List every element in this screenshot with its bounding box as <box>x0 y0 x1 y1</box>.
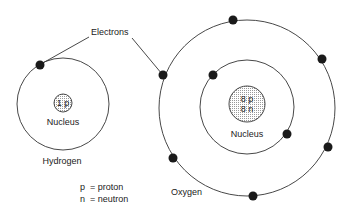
electrons-label: Electrons <box>91 27 129 37</box>
electron-icon <box>159 71 168 80</box>
electron-icon <box>324 143 333 152</box>
legend: p = proton n = neutron <box>80 182 128 204</box>
hydrogen-label: Hydrogen <box>42 156 81 166</box>
atom-diagram: Electrons 1 p Nucleus Hydrogen 8 p 8 n N… <box>0 0 350 218</box>
hydrogen-nucleus-content: 1 p <box>57 98 70 108</box>
electron-icon <box>36 61 45 70</box>
oxygen-atom: 8 p 8 n Nucleus Oxygen <box>159 16 336 201</box>
legend-meaning-neutron: = neutron <box>90 194 128 204</box>
oxygen-nucleus-protons: 8 p <box>241 94 254 104</box>
electron-icon <box>249 192 258 201</box>
oxygen-label: Oxygen <box>171 187 202 197</box>
oxygen-nucleus-neutrons: 8 n <box>241 104 254 114</box>
electrons-callout: Electrons <box>41 27 162 74</box>
electron-icon <box>229 16 238 25</box>
legend-symbol-neutron: n <box>80 194 85 204</box>
electron-icon <box>169 154 178 163</box>
legend-meaning-proton: = proton <box>90 182 123 192</box>
electron-icon <box>283 130 292 139</box>
hydrogen-nucleus-label: Nucleus <box>47 117 80 127</box>
oxygen-nucleus-label: Nucleus <box>231 129 264 139</box>
callout-line-oxygen <box>132 38 162 74</box>
electron-icon <box>209 71 218 80</box>
legend-symbol-proton: p <box>80 182 85 192</box>
callout-line-hydrogen <box>41 37 89 64</box>
electron-icon <box>318 55 327 64</box>
hydrogen-atom: 1 p Nucleus Hydrogen <box>17 58 109 166</box>
